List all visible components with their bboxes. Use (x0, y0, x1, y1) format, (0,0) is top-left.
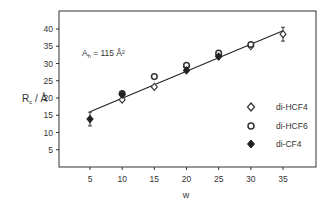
y-tick-label: 35 (44, 41, 54, 51)
filled-diamond-icon (248, 140, 255, 148)
y-tick-label: 25 (44, 76, 54, 86)
x-tick-label: 5 (88, 174, 93, 184)
x-tick-label: 10 (117, 174, 127, 184)
legend-item-di-HCF6: di-HCF6 (248, 121, 308, 131)
y-tick-label: 40 (44, 24, 54, 34)
data-point-di-HCF6 (152, 74, 158, 80)
open-circle-icon (248, 123, 254, 129)
legend-item-di-HCF4: di-HCF4 (248, 102, 308, 112)
x-axis-label: w (182, 190, 190, 200)
y-tick-label: 5 (48, 145, 53, 155)
data-point-di-CF4 (87, 116, 93, 123)
data-point-di-HCF6 (248, 42, 254, 48)
svg-text:di-CF4: di-CF4 (276, 139, 302, 149)
annotation: Ah = 115 Å² (82, 48, 125, 59)
x-tick-label: 30 (246, 174, 256, 184)
legend: di-HCF4 di-HCF6 di-CF4 (248, 102, 308, 149)
y-tick-label: 10 (44, 128, 54, 138)
data-point-di-HCF4 (151, 83, 157, 90)
svg-text:di-HCF6: di-HCF6 (276, 121, 308, 131)
y-axis: 510152025303540 (44, 24, 59, 155)
svg-text:di-HCF4: di-HCF4 (276, 102, 308, 112)
x-tick-label: 25 (214, 174, 224, 184)
y-tick-label: 15 (44, 110, 54, 120)
x-tick-label: 20 (182, 174, 192, 184)
y-tick-label: 30 (44, 59, 54, 69)
x-axis: 5101520253035 (88, 167, 288, 184)
x-tick-label: 35 (278, 174, 288, 184)
legend-item-di-CF4: di-CF4 (248, 139, 302, 149)
y-axis-label: Rc / Å (22, 92, 48, 105)
open-diamond-icon (248, 103, 255, 111)
x-tick-label: 15 (150, 174, 160, 184)
chart: 510152025303540 5101520253035 Rc / Å w A… (0, 0, 330, 210)
